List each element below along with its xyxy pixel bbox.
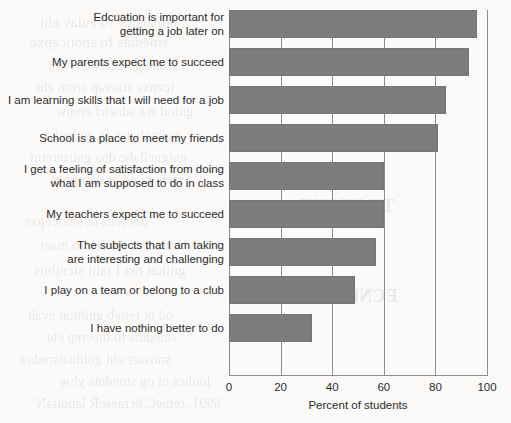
category-label-group: Edcuation is important for getting a job… xyxy=(0,10,224,375)
category-label-line: My teachers expect me to succeed xyxy=(0,207,224,221)
category-label-line: getting a job later on xyxy=(0,24,224,38)
x-tick-mark xyxy=(229,368,230,376)
category-label-line: Edcuation is important for xyxy=(0,10,224,24)
category-label-line: I play on a team or belong to a club xyxy=(0,283,224,297)
gridline xyxy=(487,10,488,375)
chart-page: noitacude fo eulav eht stneduts fo snoit… xyxy=(0,0,511,423)
category-label: I have nothing better to do xyxy=(0,321,224,335)
bar-row[interactable] xyxy=(229,86,446,114)
plot-area xyxy=(229,10,487,375)
x-tick-label: 80 xyxy=(429,381,442,393)
category-label: My parents expect me to succeed xyxy=(0,55,224,69)
bar-row[interactable] xyxy=(229,124,438,152)
category-label-line: I have nothing better to do xyxy=(0,321,224,335)
category-label-line: School is a place to meet my friends xyxy=(0,131,224,145)
x-axis-title: Percent of students xyxy=(229,399,487,411)
bar-row[interactable] xyxy=(229,48,469,76)
category-label-line: My parents expect me to succeed xyxy=(0,55,224,69)
x-axis-line xyxy=(229,375,487,376)
category-label: I play on a team or belong to a club xyxy=(0,283,224,297)
x-tick-label: 40 xyxy=(326,381,339,393)
category-label: My teachers expect me to succeed xyxy=(0,207,224,221)
bar-row[interactable] xyxy=(229,10,477,38)
category-label-line: what I am supposed to do in class xyxy=(0,176,224,190)
bar[interactable] xyxy=(229,200,384,228)
x-tick-mark xyxy=(487,368,488,376)
x-tick-mark xyxy=(384,368,385,376)
category-label-line: The subjects that I am taking xyxy=(0,238,224,252)
bar-row[interactable] xyxy=(229,314,312,342)
bar-row[interactable] xyxy=(229,238,376,266)
category-label: I get a feeling of satisfaction from doi… xyxy=(0,162,224,190)
bar[interactable] xyxy=(229,124,438,152)
category-label: School is a place to meet my friends xyxy=(0,131,224,145)
bar[interactable] xyxy=(229,10,477,38)
x-tick-mark xyxy=(281,368,282,376)
category-label-line: I get a feeling of satisfaction from doi… xyxy=(0,162,224,176)
bar[interactable] xyxy=(229,314,312,342)
category-label: I am learning skills that I will need fo… xyxy=(0,93,224,107)
x-tick-mark xyxy=(435,368,436,376)
bar[interactable] xyxy=(229,86,446,114)
bar[interactable] xyxy=(229,48,469,76)
bar[interactable] xyxy=(229,162,384,190)
bar-row[interactable] xyxy=(229,276,355,304)
x-tick-label: 60 xyxy=(377,381,390,393)
x-tick-label: 0 xyxy=(226,381,232,393)
x-tick-label: 100 xyxy=(477,381,496,393)
category-label-line: I am learning skills that I will need fo… xyxy=(0,93,224,107)
category-label-line: are interesting and challenging xyxy=(0,252,224,266)
bar-row[interactable] xyxy=(229,162,384,190)
category-label: The subjects that I am taking are intere… xyxy=(0,238,224,266)
x-tick-label: 20 xyxy=(274,381,287,393)
bar-row[interactable] xyxy=(229,200,384,228)
bar-group xyxy=(229,10,487,375)
category-label: Edcuation is important for getting a job… xyxy=(0,10,224,38)
x-tick-mark xyxy=(332,368,333,376)
bar[interactable] xyxy=(229,276,355,304)
bar[interactable] xyxy=(229,238,376,266)
